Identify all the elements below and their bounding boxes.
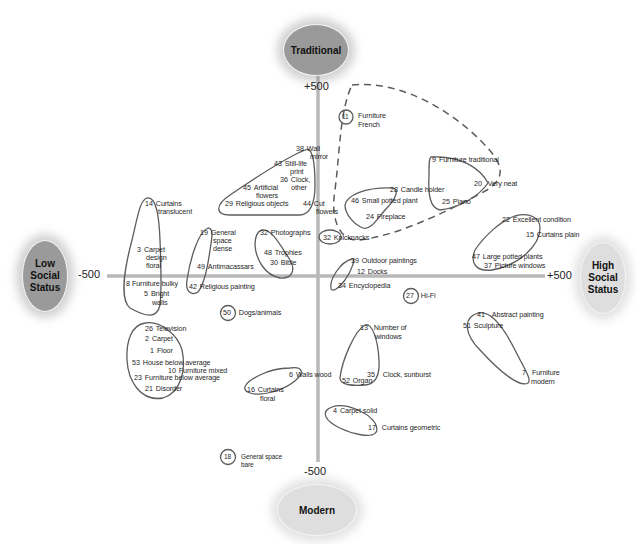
pole-high-line1: High [592, 260, 614, 272]
item-5-line2: walls [152, 299, 167, 308]
item-49: 49Antimacassars [197, 263, 254, 272]
item-39: 39Outdoor paintings [351, 257, 417, 266]
item-16-line2: floral [260, 395, 275, 404]
tick-top: +500 [304, 80, 329, 92]
item-38-line2: mirror [310, 153, 328, 162]
item-3-line3: floral [146, 262, 161, 271]
item-23: 23Furniture below average [134, 374, 220, 383]
pole-low-line2: Social [30, 270, 59, 282]
tick-bottom: -500 [304, 465, 326, 477]
pole-low-line3: Status [30, 282, 61, 294]
item-35: 35Clock, sunburst [367, 371, 431, 380]
item-22: 22Excellent condition [502, 216, 571, 225]
pole-low-social-status: Low Social Status [22, 240, 68, 312]
item-21: 21Disorder [145, 385, 182, 394]
tick-left: -500 [78, 268, 100, 280]
item-15: 15Curtains plain [526, 231, 579, 240]
item-34: 34Encyclopedia [338, 282, 390, 291]
item-4: 4Carpet solid [333, 407, 377, 416]
tick-right: +500 [547, 269, 572, 281]
item-28: 28Candle holder [390, 186, 444, 195]
item-32-photographs: 32Photographs [260, 229, 310, 238]
pole-traditional: Traditional [283, 24, 349, 76]
pole-low-line1: Low [35, 258, 55, 270]
item-30: 30Bible [270, 259, 296, 268]
item-17: 17Curtains geometric [368, 424, 440, 433]
item-46: 46Small potted plant [351, 197, 418, 206]
item-6: 6Walls wood [289, 371, 331, 380]
item-20: 20Very neat [474, 180, 517, 189]
item-25: 25Piano [442, 198, 471, 207]
item-36-line2: other [291, 184, 307, 193]
cluster-candle-holder [345, 188, 396, 228]
item-24: 24Fireplace [366, 213, 405, 222]
item-8: 8Furniture bulky [126, 280, 178, 289]
pole-high-line2: Social [588, 272, 617, 284]
item-41: 41Abstract painting [477, 311, 544, 320]
item-37: 37Picture windows [484, 262, 545, 271]
item-18-line2: bare [241, 461, 254, 470]
item-13-line2: windows [375, 333, 402, 342]
item-48: 48Trophies [264, 249, 302, 258]
pole-high-social-status: High Social Status [580, 242, 626, 314]
item-19-line3: dense [213, 245, 232, 254]
semantic-differential-diagram: Traditional Modern Low Social Status Hig… [0, 0, 637, 544]
item-42: 42Religious painting [189, 283, 255, 292]
item-26: 26Television [145, 325, 186, 334]
item-50: 50Dogs/animals [223, 309, 281, 318]
item-29: 29Religious objects [225, 200, 288, 209]
item-11: 11FurnitureFrench [342, 113, 352, 122]
item-2: 2Carpet [145, 335, 173, 344]
item-44-line2: flowers [316, 208, 338, 217]
item-12: 12Docks [357, 268, 387, 277]
item-32-knicknacks: 32Knicknacks [323, 234, 369, 243]
item-27: 27Hi-Fi [406, 292, 435, 301]
item-51: 51Sculpture [463, 322, 503, 331]
item-9: 9Furniture traditional [432, 156, 499, 165]
pole-modern-label: Modern [299, 505, 335, 516]
pole-modern: Modern [277, 484, 357, 536]
pole-high-line3: Status [588, 284, 619, 296]
item-52: 52Organ [342, 377, 372, 386]
item-14-line2: translucent [158, 208, 192, 217]
pole-traditional-label: Traditional [291, 45, 342, 56]
item-7-line2: modern [531, 378, 555, 387]
item-1: 1Floor [150, 347, 173, 356]
